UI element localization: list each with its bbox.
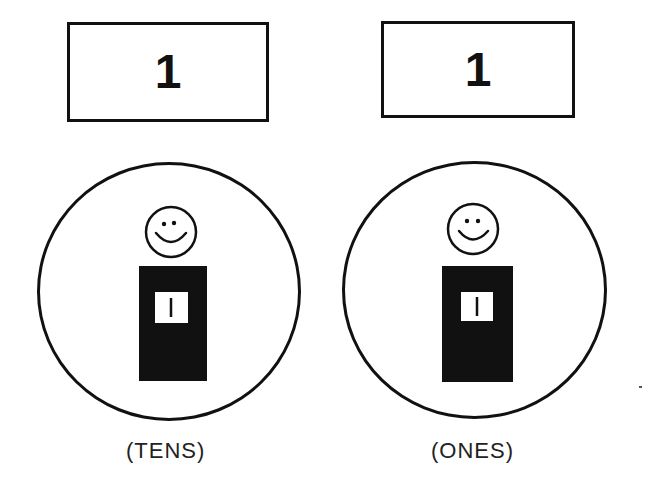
ones-person-figure bbox=[0, 0, 663, 485]
body-card-icon bbox=[442, 266, 513, 382]
dust-speck bbox=[639, 386, 642, 388]
ones-label: (ONES) bbox=[431, 440, 514, 462]
smiley-face-icon bbox=[448, 204, 498, 254]
